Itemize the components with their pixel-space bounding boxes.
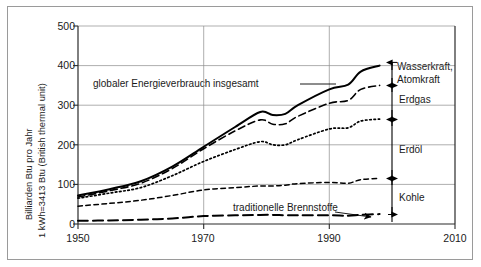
grid-vertical (204, 26, 330, 224)
series-line-1 (78, 85, 380, 197)
grid-horizontal (78, 26, 455, 184)
chart-canvas (0, 0, 481, 267)
series-line-3 (78, 178, 380, 206)
axis-lines (78, 26, 455, 224)
energy-consumption-figure: Billiarden Btu pro Jahr 1 kWh=3413 Btu (… (0, 0, 481, 267)
leader-lines (300, 84, 371, 217)
data-curves (78, 66, 380, 221)
series-line-0 (78, 66, 380, 196)
tick-marks (73, 26, 455, 229)
series-line-4 (78, 214, 380, 221)
